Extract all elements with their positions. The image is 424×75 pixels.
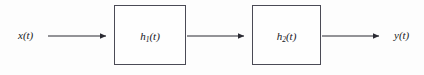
output-signal-label: y(t) [394, 30, 409, 41]
system-block-h1-label: h1(t) [140, 31, 160, 42]
system-block-h2-label: h2(t) [277, 31, 297, 42]
input-signal-label: x(t) [18, 30, 33, 41]
diagram-canvas [0, 0, 424, 75]
subscript-2: 2 [282, 35, 286, 44]
block-diagram-figure: h1(t) h2(t) x(t) y(t) [0, 0, 424, 75]
subscript-1: 1 [146, 35, 150, 44]
